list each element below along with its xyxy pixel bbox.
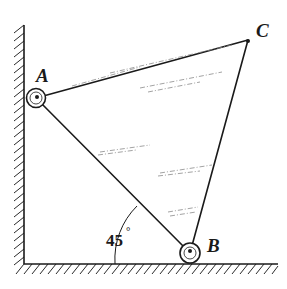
label-b: B [206, 235, 220, 256]
label-a: A [35, 65, 49, 86]
plate-diagram: A B C 45 ° [0, 0, 287, 289]
wall-hatching [14, 25, 24, 265]
label-c: C [256, 20, 269, 41]
degree-symbol: ° [126, 225, 130, 237]
roller-b [180, 243, 200, 263]
angle-label: 45 [106, 231, 123, 250]
pin-c [246, 39, 250, 43]
diagram-canvas: A B C 45 ° [0, 0, 287, 289]
floor-hatching [16, 264, 278, 274]
roller-a [27, 89, 46, 108]
